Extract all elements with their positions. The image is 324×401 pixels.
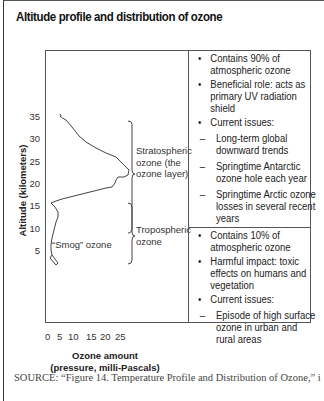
x-axis-label-line1: Ozone amount [40,350,170,362]
trop-sub-1: –Episode of high surface ozone in urban … [197,310,317,346]
strat-bullet-1: Contains 90% of atmospheric ozone [197,53,317,77]
strat-bullet-3: Current issues: [197,117,317,129]
trop-bullet-1: Contains 10% of atmospheric ozone [197,230,317,254]
x-tick-10: 10 [68,331,79,342]
y-axis-label: Altitude (kilometers) [17,131,28,251]
source-caption: SOURCE: “Figure 14. Temperature Profile … [14,372,321,383]
strat-sub-2: –Springtime Antarctic ozone hole each ye… [197,161,317,185]
troposphere-panel: Contains 10% of atmospheric ozone Harmfu… [189,227,310,350]
tropospheric-brace [128,203,135,264]
tropospheric-ozone-label: Tropospheric ozone [136,224,191,247]
x-tick-15: 15 [86,331,97,342]
strat-sub-3: –Springtime Arctic ozone losses in sever… [197,189,317,225]
smog-ozone-marker [50,255,58,265]
x-tick-25: 25 [115,331,126,342]
x-tick-5: 5 [57,331,62,342]
ozone-profile-line [51,114,129,255]
x-axis-label: Ozone amount (pressure, milli-Pascals) [40,350,170,374]
description-panel: Contains 90% of atmospheric ozone Benefi… [188,50,311,323]
stratosphere-panel: Contains 90% of atmospheric ozone Benefi… [189,51,310,227]
trop-bullet-2: Harmful impact: toxic effects on humans … [197,256,317,292]
stratospheric-ozone-label: Stratospheric ozone (the ozone layer) [136,145,192,180]
trop-bullet-3: Current issues: [197,294,317,306]
smog-ozone-label: “Smog” ozone [52,239,112,251]
x-tick-20: 20 [100,331,111,342]
strat-sub-1: –Long-term global downward trends [197,133,317,157]
y-tick-35: 35 [18,111,40,122]
strat-bullet-2: Beneficial role: acts as primary UV radi… [197,79,317,115]
x-tick-0: 0 [45,331,50,342]
